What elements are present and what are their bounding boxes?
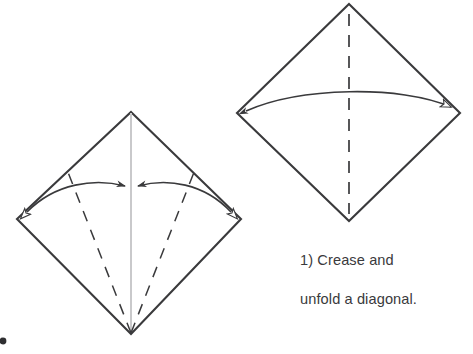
step-caption-line-2: unfold a diagonal. — [300, 290, 470, 310]
step-caption: 1) Crease and unfold a diagonal. — [300, 231, 470, 329]
edge-artifact-dot — [0, 338, 6, 345]
panel-right-square-unfolded — [237, 4, 460, 221]
step-caption-line-1: 1) Crease and — [300, 251, 470, 271]
square-outline-left — [17, 112, 241, 334]
panel-left-square-folding — [17, 112, 241, 334]
